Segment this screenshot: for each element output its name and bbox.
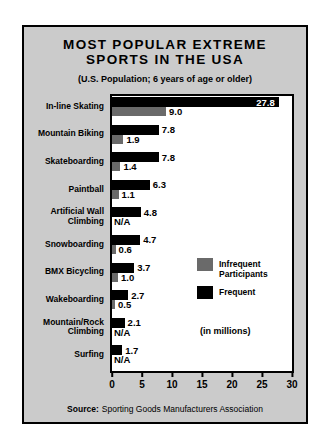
- bar-pair: 27.89.0: [112, 97, 292, 125]
- legend-swatch-frequent: [197, 286, 213, 299]
- x-tick-mark: [291, 373, 293, 377]
- source-note: Source:Sporting Goods Manufacturers Asso…: [24, 404, 306, 414]
- x-tick-mark: [111, 373, 113, 377]
- x-tick-30: 30: [286, 373, 297, 390]
- bar-pair: 6.31.1: [112, 180, 292, 208]
- category-label: Paintball: [24, 180, 110, 199]
- chart-row-artificial-wall-climbing: Artificial WallClimbing4.8N/A: [24, 207, 306, 235]
- bar-pair: 7.81.4: [112, 152, 292, 180]
- legend-swatch-infrequent: [197, 258, 213, 271]
- chart-panel: MOST POPULAR EXTREME SPORTS IN THE USA (…: [22, 25, 308, 424]
- value-label: 0.5: [118, 300, 131, 309]
- category-label: Skateboarding: [24, 152, 110, 171]
- value-label: 2.1: [128, 318, 141, 327]
- category-label: Mountain/RockClimbing: [24, 318, 110, 337]
- category-label: Snowboarding: [24, 235, 110, 254]
- value-label: 1.0: [121, 273, 134, 282]
- value-label: 2.7: [131, 291, 144, 300]
- infrequent-bar: [112, 245, 116, 254]
- x-tick-mark: [141, 373, 143, 377]
- infrequent-bar-line: N/A: [112, 355, 292, 364]
- frequent-bar-line: 1.7: [112, 345, 292, 355]
- infrequent-bar: [112, 190, 119, 199]
- infrequent-bar-line: 9.0: [112, 107, 292, 116]
- frequent-bar: 27.8: [112, 97, 279, 107]
- category-label-text: Paintball: [69, 185, 104, 195]
- bar-pair: 7.81.9: [112, 125, 292, 153]
- infrequent-bar-line: 0.6: [112, 245, 292, 254]
- category-label: BMX Bicycling: [24, 263, 110, 282]
- category-label-text: Mountain Biking: [38, 129, 104, 139]
- value-label: 9.0: [169, 107, 182, 116]
- bar-pair: 1.7N/A: [112, 345, 292, 373]
- chart-row-mountain-rock-climbing: Mountain/RockClimbing2.1N/A: [24, 318, 306, 346]
- value-label: 4.8: [144, 208, 157, 217]
- frequent-bar-line: 4.8: [112, 207, 292, 217]
- category-label: Surfing: [24, 345, 110, 364]
- category-label-text: Snowboarding: [45, 240, 104, 250]
- value-label: 7.8: [162, 125, 175, 134]
- units-note: (in millions): [200, 326, 251, 336]
- value-label: 4.7: [143, 235, 156, 244]
- chart-title: MOST POPULAR EXTREME SPORTS IN THE USA: [24, 37, 306, 67]
- x-tick-mark: [171, 373, 173, 377]
- infrequent-bar: [112, 273, 118, 282]
- value-label: 7.8: [162, 153, 175, 162]
- x-tick-label: 25: [256, 379, 267, 390]
- category-label: Wakeboarding: [24, 290, 110, 309]
- value-label: 1.9: [126, 135, 139, 144]
- infrequent-bar-line: 1.4: [112, 162, 292, 171]
- value-label-na: N/A: [114, 217, 130, 226]
- value-label: 1.4: [123, 162, 136, 171]
- x-tick-label: 20: [226, 379, 237, 390]
- page: { "panel": { "background": "#cbcbcb", "b…: [0, 0, 324, 446]
- x-tick-mark: [261, 373, 263, 377]
- x-tick-20: 20: [226, 373, 237, 390]
- category-label-text: BMX Bicycling: [45, 267, 104, 277]
- frequent-bar-line: 6.3: [112, 180, 292, 190]
- source-label: Source:: [67, 404, 99, 414]
- chart-row-paintball: Paintball6.31.1: [24, 180, 306, 208]
- chart-title-line2: SPORTS IN THE USA: [24, 52, 306, 67]
- bar-pair: 4.8N/A: [112, 207, 292, 235]
- legend-item-frequent: Frequent: [197, 286, 268, 299]
- chart-row-in-line-skating: In-line Skating27.89.0: [24, 97, 306, 125]
- infrequent-bar: [112, 107, 166, 116]
- legend-label-frequent: Frequent: [219, 286, 255, 297]
- source-text: Sporting Goods Manufacturers Association: [102, 404, 263, 414]
- frequent-bar-line: 4.7: [112, 235, 292, 245]
- x-tick-label: 5: [139, 379, 145, 390]
- x-tick-15: 15: [196, 373, 207, 390]
- x-axis: 051015202530: [112, 373, 292, 395]
- legend-label-infrequent: InfrequentParticipants: [219, 258, 268, 279]
- category-label: Artificial WallClimbing: [24, 207, 110, 226]
- frequent-bar-line: 27.8: [112, 97, 292, 107]
- x-tick-label: 0: [109, 379, 115, 390]
- infrequent-bar-line: N/A: [112, 217, 292, 226]
- value-label-na: N/A: [114, 355, 130, 364]
- category-label-text: Wakeboarding: [46, 295, 104, 305]
- category-label-text: Skateboarding: [45, 157, 104, 167]
- x-tick-25: 25: [256, 373, 267, 390]
- category-label-text: Mountain/RockClimbing: [43, 318, 104, 337]
- x-tick-mark: [201, 373, 203, 377]
- category-label-text: Artificial WallClimbing: [50, 207, 104, 226]
- infrequent-bar: [112, 162, 120, 171]
- chart-row-skateboarding: Skateboarding7.81.4: [24, 152, 306, 180]
- chart-title-line1: MOST POPULAR EXTREME: [24, 37, 306, 52]
- x-tick-10: 10: [166, 373, 177, 390]
- bar-rows: In-line Skating27.89.0Mountain Biking7.8…: [24, 94, 306, 373]
- category-label-text: In-line Skating: [46, 102, 104, 112]
- frequent-bar-line: 7.8: [112, 152, 292, 162]
- infrequent-bar-line: 1.9: [112, 135, 292, 144]
- chart-row-surfing: Surfing1.7N/A: [24, 345, 306, 373]
- value-label: 6.3: [153, 180, 166, 189]
- chart-row-mountain-biking: Mountain Biking7.81.9: [24, 125, 306, 153]
- value-label-na: N/A: [114, 328, 130, 337]
- infrequent-bar-line: 1.1: [112, 190, 292, 199]
- legend: InfrequentParticipantsFrequent: [197, 258, 268, 306]
- x-tick-mark: [231, 373, 233, 377]
- legend-item-infrequent: InfrequentParticipants: [197, 258, 268, 279]
- value-label: 3.7: [137, 263, 150, 272]
- category-label-text: Surfing: [74, 350, 104, 360]
